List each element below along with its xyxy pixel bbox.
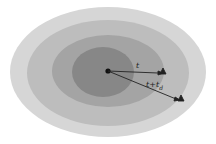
concentric-ellipses-diagram: [0, 0, 216, 144]
label-t-plus-td-sub: d: [159, 84, 163, 91]
label-t: t: [136, 62, 139, 70]
label-t-plus-td: t+td: [146, 81, 163, 91]
label-t-plus-td-main: t+t: [146, 80, 159, 89]
